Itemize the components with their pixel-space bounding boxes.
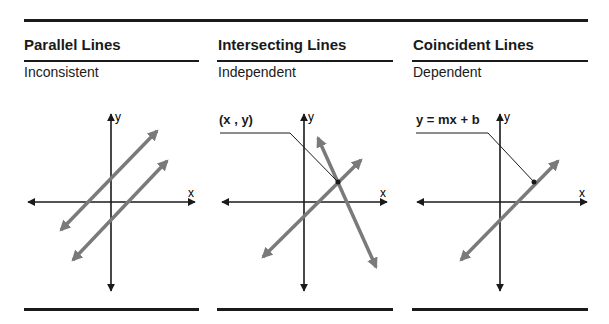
axes-coincident — [417, 114, 587, 291]
y-axis-label: y — [308, 110, 314, 124]
y-axis-label: y — [115, 110, 121, 124]
axes-intersecting — [222, 114, 387, 291]
parallel-lines — [61, 131, 167, 260]
equation-leader-line — [416, 133, 534, 182]
x-axis-label: x — [579, 186, 585, 200]
coincident-line — [461, 161, 558, 260]
axes-parallel — [28, 114, 195, 291]
x-axis-label: x — [188, 186, 194, 200]
graphs-canvas: y x y x y x — [0, 0, 609, 324]
intersection-point — [336, 180, 341, 185]
x-axis-label: x — [380, 186, 386, 200]
y-axis-label: y — [504, 110, 510, 124]
line-point — [532, 180, 537, 185]
